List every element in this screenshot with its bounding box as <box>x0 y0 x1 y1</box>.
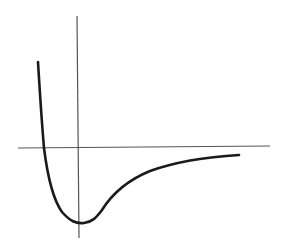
vertical-axis <box>77 16 79 238</box>
horizontal-axis <box>18 146 270 148</box>
potential-energy-curve <box>38 62 239 223</box>
diagram-svg <box>0 0 284 248</box>
potential-energy-diagram <box>0 0 284 248</box>
